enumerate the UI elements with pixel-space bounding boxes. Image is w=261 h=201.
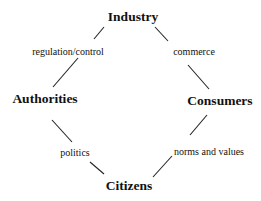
node-citizens: Citizens (106, 179, 153, 193)
edge-label-regulation-control: regulation/control (32, 47, 104, 57)
line-industry-to-commerce (155, 27, 168, 41)
line-commerce-to-consumers (188, 65, 209, 89)
line-authorities-to-politics (52, 120, 72, 142)
node-consumers: Consumers (187, 94, 252, 108)
line-industry-to-regulation (94, 27, 104, 39)
edge-label-commerce: commerce (173, 47, 215, 57)
edge-label-politics: politics (60, 148, 89, 158)
node-industry: Industry (108, 10, 158, 24)
line-consumers-to-norms (190, 115, 207, 135)
line-politics-to-citizens (90, 162, 104, 174)
node-authorities: Authorities (12, 92, 77, 106)
line-norms-to-citizens (153, 156, 172, 177)
edge-label-norms-and-values: norms and values (174, 147, 244, 157)
line-regulation-to-authorities (53, 58, 78, 87)
